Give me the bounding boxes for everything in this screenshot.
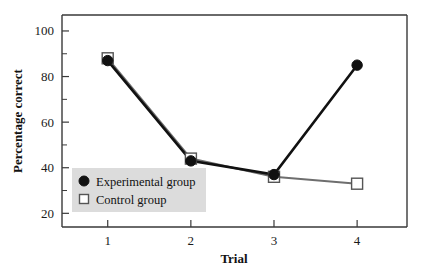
x-tick-label-4: 4 [354,233,361,248]
data-point-experimental-trial-4 [352,60,362,70]
y-axis: 20406080100 [35,23,70,220]
chart-container: 20406080100 1234 Experimental group Cont… [0,0,426,279]
series-line-control [108,58,357,183]
x-tick-label-2: 2 [188,233,195,248]
y-tick-label-40: 40 [41,160,54,175]
line-chart: 20406080100 1234 Experimental group Cont… [0,0,426,279]
x-axis-title: Trial [220,251,248,266]
data-point-experimental-trial-3 [269,169,279,179]
x-tick-label-1: 1 [104,233,111,248]
chart-legend: Experimental group Control group [72,168,206,212]
legend-marker-filled-circle-icon [79,176,89,186]
y-tick-label-20: 20 [41,206,54,221]
data-point-experimental-trial-1 [103,55,113,65]
series-line-experimental [108,61,357,175]
legend-item-label-experimental: Experimental group [96,175,196,189]
x-tick-label-3: 3 [271,233,278,248]
y-tick-label-60: 60 [41,115,54,130]
y-axis-title: Percentage correct [10,68,25,172]
data-point-control-trial-4 [352,178,363,189]
y-tick-label-80: 80 [41,69,54,84]
data-point-experimental-trial-2 [186,156,196,166]
legend-marker-open-square-icon [80,195,89,204]
y-tick-label-100: 100 [35,23,55,38]
legend-item-label-control: Control group [96,193,166,207]
x-axis: 1234 [104,220,360,248]
